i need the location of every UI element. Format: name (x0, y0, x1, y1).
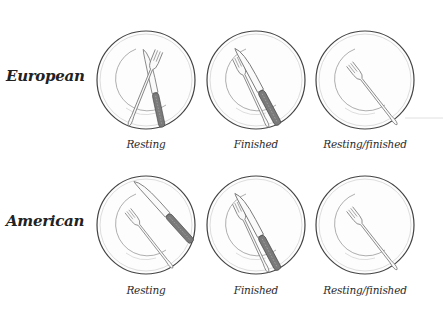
plate-european-resting (97, 31, 195, 129)
plate-american-resting (97, 176, 195, 274)
plate-american-resting-finished (316, 176, 414, 274)
illustration (0, 0, 443, 316)
plate-american-finished (207, 176, 305, 274)
plate-european-finished (207, 31, 305, 129)
plate-european-resting-finished (316, 31, 443, 129)
